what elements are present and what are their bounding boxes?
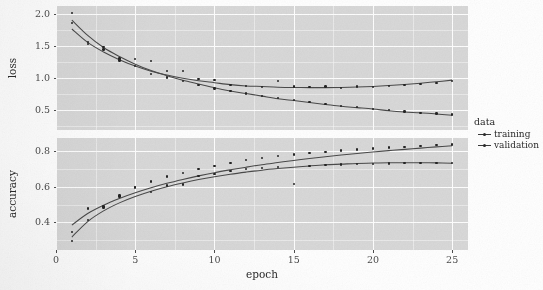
x-tick-label: 0 [36,254,76,265]
datapoint-validation [102,205,104,207]
fit-curves-accuracy [0,0,543,290]
legend-item-validation[interactable]: validation [478,140,540,151]
chart-root: 0.51.01.52.0loss0.40.60.8accuracy0510152… [0,0,543,290]
fit-line-validation [72,163,452,237]
datapoint-validation [308,165,310,167]
datapoint-training [229,162,231,164]
x-tick-label: 25 [432,254,472,265]
datapoint-validation [87,207,89,209]
x-tick-mark [214,250,215,253]
x-tick-label: 20 [353,254,393,265]
datapoint-validation [229,170,231,172]
datapoint-validation [182,183,184,185]
datapoint-training [403,146,405,148]
x-tick-mark [373,250,374,253]
datapoint-training [324,151,326,153]
x-tick-label: 10 [194,254,234,265]
datapoint-validation [372,163,374,165]
x-tick-mark [294,250,295,253]
datapoint-training [388,146,390,148]
x-tick-mark [452,250,453,253]
datapoint-validation [213,173,215,175]
datapoint-validation [324,164,326,166]
x-tick-label: 5 [115,254,155,265]
datapoint-training [419,145,421,147]
datapoint-validation [435,162,437,164]
legend-key-line-point-icon [478,129,491,140]
datapoint-training [356,148,358,150]
x-axis-title: epoch [56,268,468,280]
legend-key-line-point-icon [478,140,491,151]
datapoint-validation [118,194,120,196]
x-tick-label: 15 [274,254,314,265]
legend-title: data [474,117,540,127]
datapoint-training [372,147,374,149]
datapoint-validation [166,184,168,186]
datapoint-training [213,165,215,167]
datapoint-validation [419,162,421,164]
x-tick-mark [56,250,57,253]
datapoint-validation [388,162,390,164]
datapoint-training [166,175,168,177]
chart-legend: data training validation [474,117,540,151]
legend-label-validation: validation [494,140,539,151]
datapoint-training [293,153,295,155]
x-tick-mark [135,250,136,253]
legend-label-training: training [494,129,530,140]
datapoint-training [150,180,152,182]
legend-item-training[interactable]: training [478,129,540,140]
datapoint-training [87,219,89,221]
